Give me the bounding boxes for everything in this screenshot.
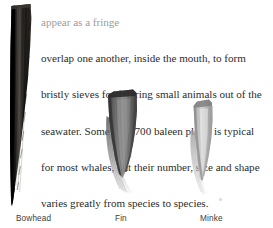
caption-fin: Fin	[115, 214, 127, 224]
minke-baleen-image	[185, 90, 233, 198]
caption-bowhead: Bowhead	[16, 214, 51, 224]
body-line-clipped: appear as a fringe	[41, 16, 271, 28]
scan-speckle	[219, 198, 222, 201]
document-page: appear as a fringe overlap one another, …	[0, 0, 273, 228]
bowhead-baleen-image	[2, 0, 48, 210]
body-line-5: varies greatly from species to species.	[41, 197, 271, 209]
fin-baleen-image	[99, 84, 157, 196]
body-line-1: overlap one another, inside the mouth, t…	[41, 52, 271, 64]
caption-minke: Minke	[200, 214, 223, 224]
